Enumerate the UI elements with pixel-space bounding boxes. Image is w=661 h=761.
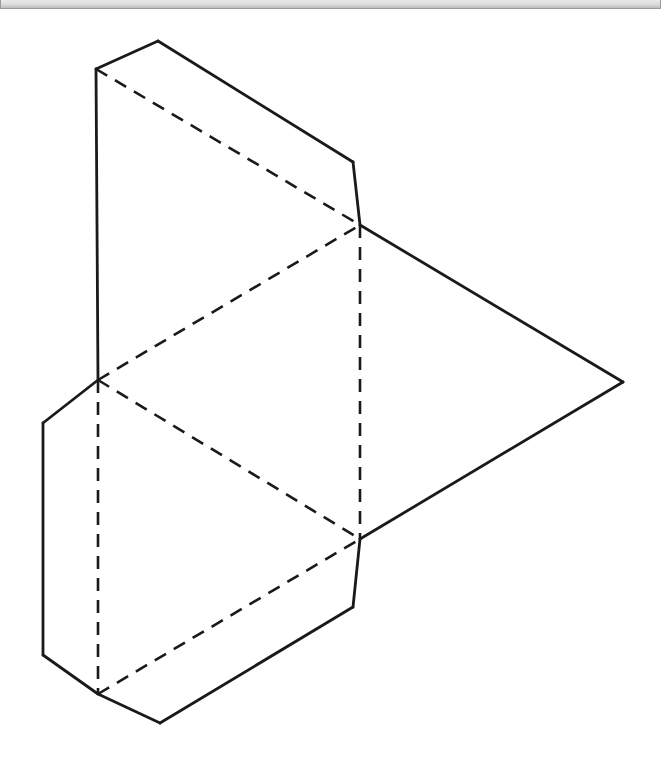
- left-flap-lower-bevel: [43, 655, 98, 694]
- bottom-right-vertical-edge: [353, 539, 360, 607]
- visible-edges-group: [43, 41, 623, 723]
- right-triangle-upper-edge: [360, 225, 623, 382]
- hidden-fold-lower-diagonal: [98, 380, 360, 539]
- top-right-vertical-edge: [353, 162, 360, 225]
- window-title-bar[interactable]: [0, 0, 661, 9]
- application-window: [0, 0, 661, 761]
- hidden-fold-top-diagonal: [96, 69, 360, 225]
- bottom-flap-lower-ridge: [98, 694, 160, 723]
- hidden-fold-upper-diagonal: [98, 225, 360, 380]
- top-flap-right-ridge: [158, 41, 353, 162]
- right-triangle-lower-edge: [360, 382, 623, 539]
- hidden-fold-lines-group: [96, 69, 360, 694]
- triangular-prism-net-figure: [0, 9, 661, 761]
- bottom-flap-upper-ridge: [160, 607, 353, 723]
- top-flap-left-ridge: [96, 41, 158, 69]
- left-vertical-upper-edge: [96, 69, 98, 380]
- hidden-fold-bottom-diagonal: [98, 539, 360, 694]
- left-flap-upper-bevel: [43, 380, 98, 423]
